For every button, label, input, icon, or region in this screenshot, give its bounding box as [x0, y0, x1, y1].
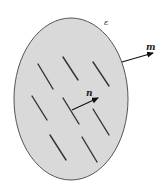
- region-label-epsilon: ε: [104, 18, 108, 27]
- normal-label-n: n: [86, 88, 93, 98]
- domain-region: [14, 18, 128, 180]
- normal-label-m: m: [146, 42, 156, 52]
- crack-domain-diagram: ε m n: [0, 0, 164, 190]
- outer-normal-arrow-m: [122, 53, 153, 62]
